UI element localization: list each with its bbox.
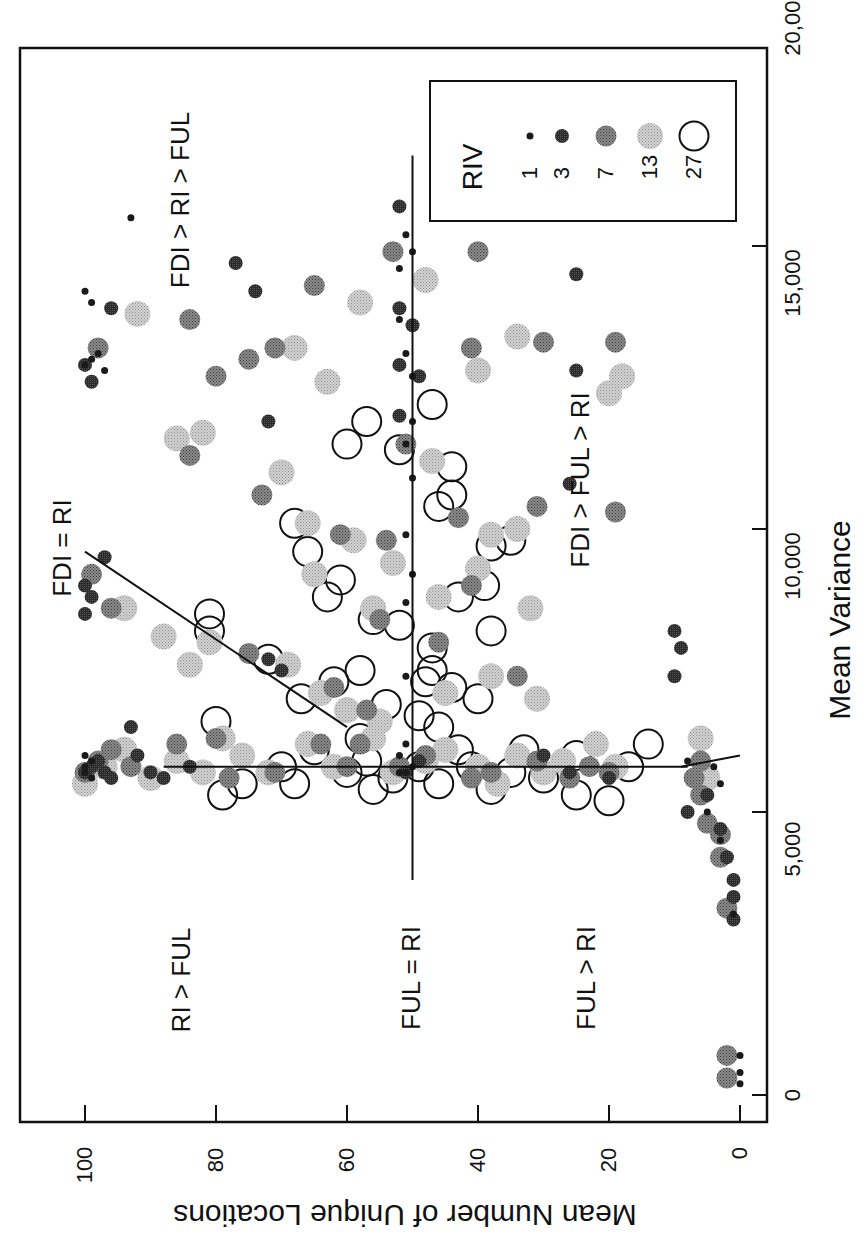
data-point-riv-1 [402,769,409,776]
data-point-riv-7 [428,632,449,653]
data-point-riv-3 [85,375,99,389]
data-point-riv-1 [82,752,89,759]
data-point-riv-7 [179,445,200,466]
data-point-riv-1 [82,763,89,770]
data-point-riv-3 [602,771,616,785]
data-point-riv-7 [304,275,325,296]
data-point-riv-1 [737,1080,744,1087]
data-point-riv-7 [533,332,554,353]
data-point-riv-27 [352,407,381,436]
data-point-riv-3 [392,358,406,372]
scatter-chart [0,0,865,1235]
legend-marker-riv-13 [637,123,663,149]
data-point-riv-7 [448,507,469,528]
data-point-riv-7 [101,739,122,760]
y-tick-label-40: 40 [465,1148,491,1172]
data-point-riv-13 [413,267,439,293]
data-point-riv-13 [151,624,177,650]
data-point-riv-1 [95,350,102,357]
data-point-riv-3 [668,624,682,638]
data-point-riv-27 [418,390,447,419]
data-point-riv-27 [293,537,322,566]
data-point-riv-13 [478,522,504,548]
data-point-riv-13 [432,680,458,706]
data-point-riv-1 [710,763,717,770]
data-point-riv-13 [347,290,373,316]
data-point-riv-13 [282,335,308,361]
data-point-riv-7 [238,349,259,370]
data-point-riv-13 [432,737,458,763]
y-axis-title: Mean Number of Unique Locations [173,1198,637,1232]
data-point-riv-27 [195,599,224,628]
data-point-riv-13 [334,697,360,723]
data-point-riv-7 [481,762,502,783]
data-point-riv-7 [461,575,482,596]
data-point-riv-7 [323,677,344,698]
data-point-riv-1 [737,1052,744,1059]
x-axis-title: Mean Variance [823,520,857,720]
data-point-riv-1 [730,910,737,917]
data-point-riv-13 [504,324,530,350]
data-point-riv-13 [295,510,321,536]
region-label-fdi-eq-ri: FDI = RI [47,499,78,597]
legend-marker-riv-7 [596,126,617,147]
legend-label-7: 7 [593,167,619,179]
data-point-riv-1 [88,356,95,363]
legend-label-13: 13 [637,155,663,179]
data-point-riv-3 [674,641,688,655]
data-point-riv-7 [369,609,390,630]
legend-marker-riv-3 [555,129,569,143]
data-point-riv-7 [376,530,397,551]
data-point-riv-7 [468,241,489,262]
data-point-riv-3 [229,256,243,270]
data-point-riv-3 [248,284,262,298]
data-point-riv-27 [595,786,624,815]
data-point-riv-13 [688,725,714,751]
data-point-riv-13 [504,516,530,542]
data-point-riv-13 [314,369,340,395]
region-label-ful-eq-ri: FUL = RI [396,926,427,1030]
data-point-riv-1 [88,758,95,765]
data-point-riv-13 [596,380,622,406]
data-point-riv-7 [461,768,482,789]
data-point-riv-7 [382,241,403,262]
data-point-riv-3 [104,301,118,315]
data-point-riv-1 [737,1069,744,1076]
data-point-riv-3 [261,415,275,429]
data-point-riv-3 [727,873,741,887]
data-point-riv-3 [124,720,138,734]
legend-label-3: 3 [549,167,575,179]
data-point-riv-13 [478,663,504,689]
data-point-riv-7 [350,734,371,755]
legend-title: RIV [457,144,489,191]
legend-marker-riv-1 [527,133,534,140]
data-point-riv-1 [684,758,691,765]
data-point-riv-27 [346,656,375,685]
x-tick-label-20000: 20,000 [780,0,806,56]
data-point-riv-13 [177,652,203,678]
x-tick-label-0: 0 [780,1089,806,1101]
region-label-fdi-ri-ful: FDI > RI > FUL [165,112,196,288]
data-point-riv-13 [465,358,491,384]
x-tick-label-15000: 15,000 [780,249,806,316]
data-point-riv-7 [356,700,377,721]
data-point-riv-3 [668,669,682,683]
data-point-riv-27 [333,430,362,459]
data-point-riv-7 [251,485,272,506]
data-point-riv-1 [88,775,95,782]
data-point-riv-13 [269,459,295,485]
data-point-riv-3 [78,607,92,621]
data-point-riv-7 [716,1045,737,1066]
data-point-riv-13 [419,448,445,474]
legend-label-1: 1 [517,167,543,179]
data-point-riv-27 [634,730,663,759]
y-tick-label-100: 100 [72,1147,98,1184]
data-point-riv-3 [130,748,144,762]
data-point-riv-7 [605,332,626,353]
data-point-riv-7 [310,734,331,755]
data-point-riv-13 [301,561,327,587]
data-point-riv-13 [517,595,543,621]
data-point-riv-13 [190,420,216,446]
data-point-riv-7 [264,762,285,783]
data-point-riv-1 [717,837,724,844]
